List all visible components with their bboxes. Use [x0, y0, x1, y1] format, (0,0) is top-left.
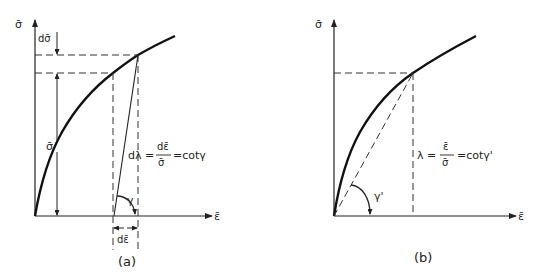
caption-b: (b) [414, 250, 432, 265]
stress-strain-curve-a [35, 36, 175, 216]
formula-a: dλ = dε̄ σ̄ =cotγ [128, 141, 206, 168]
formula-a-numerator: dε̄ [157, 141, 169, 152]
sigma-label-a: σ̄ [46, 140, 53, 153]
formula-a-lhs: dλ = [128, 149, 154, 162]
gamma-prime-label: γ' [374, 190, 384, 203]
y-axis-label-b: σ̄ [315, 18, 322, 31]
y-axis-label-a: σ̄ [15, 18, 22, 31]
gamma-label-a: γ [127, 194, 134, 207]
d-sigma-label: dσ̄ [38, 33, 51, 44]
formula-b-rhs: =cotγ' [457, 149, 493, 162]
x-axis-label-a: ε̄ [214, 210, 220, 223]
formula-b-denominator: σ̄ [442, 157, 449, 168]
d-epsilon-label: dε̄ [117, 234, 129, 245]
stress-strain-curve-b [334, 36, 476, 216]
x-axis-label-b: ε̄ [518, 210, 524, 223]
panel-b: σ̄ ε̄ γ' λ = ε̄ σ̄ =cotγ' (b) [315, 18, 524, 265]
formula-a-rhs: =cotγ [173, 149, 206, 162]
formula-b-numerator: ε̄ [443, 141, 448, 152]
stress-strain-diagram: σ̄ dσ̄ σ̄ ε̄ dε̄ γ dλ = dε̄ σ̄ =cotγ (a)… [0, 0, 539, 280]
formula-b: λ = ε̄ σ̄ =cotγ' [417, 141, 493, 168]
caption-a: (a) [118, 254, 136, 269]
strain-increment-line-a [114, 55, 138, 216]
formula-b-lhs: λ = [417, 149, 436, 162]
panel-a: σ̄ dσ̄ σ̄ ε̄ dε̄ γ dλ = dε̄ σ̄ =cotγ (a) [15, 18, 220, 269]
gamma-prime-arc [351, 185, 370, 214]
formula-a-denominator: σ̄ [158, 157, 165, 168]
